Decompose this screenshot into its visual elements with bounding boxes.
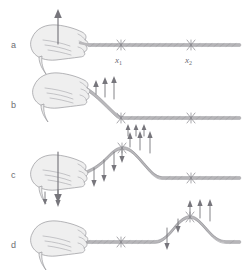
residual-down-arrows-d [43,190,61,207]
panel-b-label: b [11,100,16,110]
below-rope-up-arrows-b [126,124,147,136]
hand-d [31,221,88,270]
hand-b [33,73,90,122]
panel-d-label: d [11,240,16,250]
position-label-x2: x2 [184,55,192,66]
panel-a-label: a [11,40,16,50]
hand-a [31,25,88,74]
panel-d-rope [82,216,240,244]
left-flank-down-arrows-d [164,219,180,250]
wave-pulse-figure: a [0,0,243,279]
panel-b: b [11,73,240,136]
panel-a: a [11,9,240,74]
panel-d: d [11,190,240,270]
position-label-x1: x1 [114,55,122,66]
panel-c-label: c [11,170,16,180]
panel-a-rope [88,44,240,47]
